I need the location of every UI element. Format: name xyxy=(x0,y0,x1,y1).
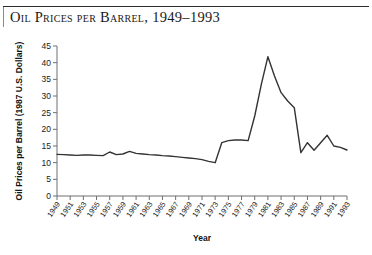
x-tick-label: 1981 xyxy=(256,200,273,219)
y-axis: 051015202530354045 xyxy=(42,41,57,201)
x-tick-label: 1963 xyxy=(137,200,154,219)
x-tick-label: 1969 xyxy=(177,200,194,219)
x-axis: 1949195119531955195719591961196319651967… xyxy=(45,196,352,219)
x-tick-label: 1977 xyxy=(230,200,247,219)
x-tick-label: 1955 xyxy=(85,200,102,219)
title-top-rule xyxy=(3,6,369,7)
x-tick-label: 1961 xyxy=(124,200,141,219)
x-tick-label: 1965 xyxy=(151,200,168,219)
figure-container: Oil Prices per Barrel, 1949–1993 0510152… xyxy=(0,0,372,255)
y-tick-label: 0 xyxy=(46,191,51,201)
x-tick-label: 1949 xyxy=(45,200,62,219)
x-tick-label: 1979 xyxy=(243,200,260,219)
x-tick-label: 1983 xyxy=(269,200,286,219)
x-tick-label: 1953 xyxy=(72,200,89,219)
x-tick-label: 1991 xyxy=(322,200,339,219)
y-tick-label: 30 xyxy=(42,91,52,101)
y-tick-labels: 051015202530354045 xyxy=(42,41,52,201)
y-tick-label: 15 xyxy=(42,141,52,151)
title-left-tick xyxy=(3,7,4,27)
x-tick-label: 1971 xyxy=(190,200,207,219)
y-tick-label: 35 xyxy=(42,74,52,84)
y-axis-title: Oil Prices per Barrel (1987 U.S. Dollars… xyxy=(14,41,24,200)
page-title: Oil Prices per Barrel, 1949–1993 xyxy=(10,9,220,26)
x-tick-label: 1967 xyxy=(164,200,181,219)
y-tick-label: 40 xyxy=(42,58,52,68)
x-tick-label: 1959 xyxy=(111,200,128,219)
x-tick-label: 1985 xyxy=(282,200,299,219)
x-tick-labels: 1949195119531955195719591961196319651967… xyxy=(45,200,352,219)
y-tick-label: 20 xyxy=(42,124,52,134)
y-tick-label: 45 xyxy=(42,41,52,51)
y-tick-label: 10 xyxy=(42,158,52,168)
y-tick-label: 25 xyxy=(42,108,52,118)
x-tick-label: 1987 xyxy=(296,200,313,219)
line-chart: 051015202530354045 194919511953195519571… xyxy=(0,28,372,255)
x-axis-title: Year xyxy=(193,233,212,243)
y-tick-label: 5 xyxy=(46,174,51,184)
x-tick-label: 1993 xyxy=(335,200,352,219)
oil-price-line-series xyxy=(57,57,347,163)
x-tick-label: 1951 xyxy=(58,200,75,219)
x-tick-label: 1957 xyxy=(98,200,115,219)
x-tick-label: 1989 xyxy=(309,200,326,219)
x-tick-marks xyxy=(57,196,347,200)
y-tick-marks xyxy=(53,46,57,196)
x-tick-label: 1975 xyxy=(217,200,234,219)
x-tick-label: 1973 xyxy=(203,200,220,219)
